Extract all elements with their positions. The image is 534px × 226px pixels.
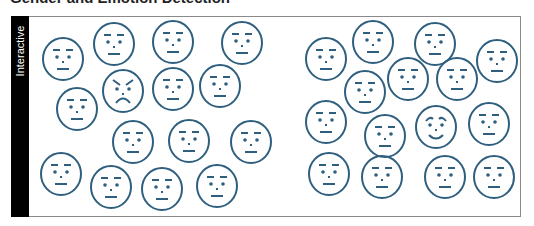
face-neutral-icon[interactable] (365, 115, 405, 157)
face-neutral-icon[interactable] (200, 65, 240, 107)
face-neutral-icon[interactable] (362, 156, 402, 198)
face-neutral-icon[interactable] (222, 22, 262, 64)
face-neutral-icon[interactable] (437, 58, 477, 100)
face-neutral-icon[interactable] (153, 68, 193, 110)
right-face-group (306, 21, 517, 198)
face-neutral-icon[interactable] (353, 21, 393, 63)
face-neutral-icon[interactable] (91, 166, 131, 208)
face-neutral-icon[interactable] (469, 103, 509, 145)
face-neutral-icon[interactable] (306, 101, 346, 143)
face-neutral-icon[interactable] (142, 168, 182, 210)
face-neutral-icon[interactable] (306, 38, 346, 80)
face-neutral-icon[interactable] (153, 21, 193, 63)
face-neutral-icon[interactable] (43, 38, 83, 80)
face-neutral-icon[interactable] (197, 165, 237, 207)
face-neutral-icon[interactable] (113, 121, 153, 163)
face-happy-icon[interactable] (416, 106, 456, 148)
face-neutral-icon[interactable] (474, 156, 514, 198)
face-neutral-icon[interactable] (425, 156, 465, 198)
face-neutral-icon[interactable] (231, 121, 271, 163)
face-neutral-icon[interactable] (309, 153, 349, 195)
face-neutral-icon[interactable] (388, 58, 428, 100)
face-neutral-icon[interactable] (94, 23, 134, 65)
faces-canvas (0, 0, 534, 226)
face-neutral-icon[interactable] (57, 88, 97, 130)
left-face-group (41, 21, 271, 210)
face-neutral-icon[interactable] (169, 120, 209, 162)
face-angry-icon[interactable] (103, 70, 143, 112)
face-neutral-icon[interactable] (345, 71, 385, 113)
face-neutral-icon[interactable] (41, 153, 81, 195)
face-neutral-icon[interactable] (477, 40, 517, 82)
